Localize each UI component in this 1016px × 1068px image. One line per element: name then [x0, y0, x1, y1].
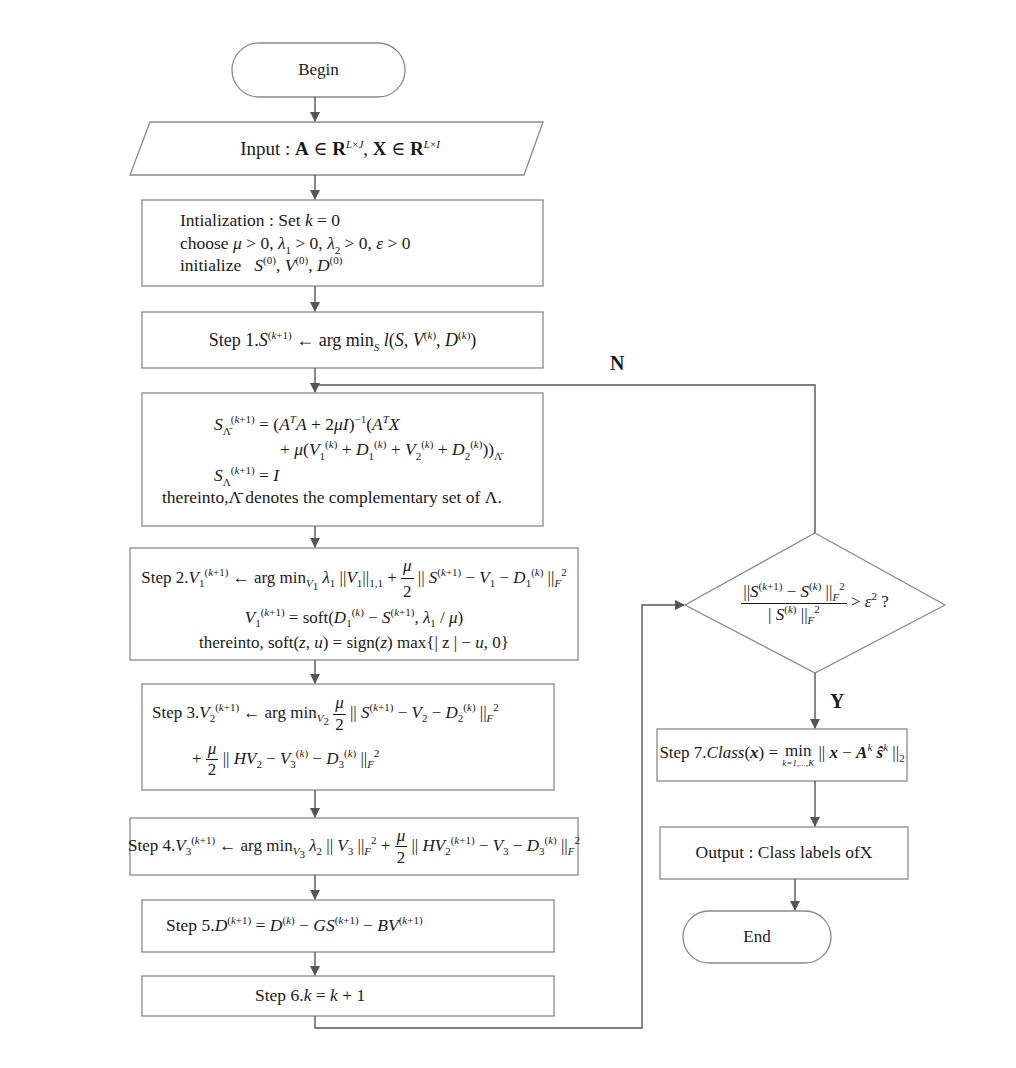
begin-label: Begin [298, 59, 339, 80]
step6-node: Step 6.k = k + 1 [142, 976, 554, 1016]
init-node: Intialization : Set k = 0 choose μ > 0, … [142, 200, 543, 286]
step3-line-2: + μ2 || HV2 − V3(k) − D3(k) ||F2 [142, 739, 380, 781]
step2-line-3: thereinto, soft(z, u) = sign(z) max{| z … [199, 630, 509, 656]
begin-terminal: Begin [232, 43, 405, 97]
init-line-3: initialize S(0), V(0), D(0) [180, 254, 342, 276]
no-branch-label: N [610, 352, 624, 375]
s-update-line-2: + μ(V1(k) + D1(k) + V2(k) + D2(k)))Λ̄ [142, 437, 502, 462]
step3-line-1: Step 3.V2(k+1) ← arg minV2 μ2 || S(k+1) … [142, 693, 499, 735]
input-label: Input : A ∈ RL×J, X ∈ RL×I [240, 137, 440, 161]
end-label: End [743, 926, 770, 947]
step2-node: Step 2.V1(k+1) ← arg minV1 λ1 ||V1||1,1 … [130, 548, 578, 660]
s-update-line-3: SΛ(k+1) = I [142, 463, 279, 488]
step1-formula: Step 1.S(k+1) ← arg minS l(S, V(k), D(k)… [209, 329, 477, 352]
step4-node: Step 4.V3(k+1) ← arg minV3 λ2 || V3 ||F2… [130, 818, 578, 875]
step5-formula: Step 5.D(k+1) = D(k) − GS(k+1) − BV(k+1) [166, 915, 423, 937]
decision-formula: ||S(k+1) − S(k) ||F2| S(k) ||F2 > ε2 ? [741, 581, 888, 625]
step7-node: Step 7.Class(x) = mink=1,...,K || x − Ak… [657, 729, 907, 781]
step7-formula: Step 7.Class(x) = mink=1,...,K || x − Ak… [659, 742, 904, 768]
s-update-node: SΛ̄(k+1) = (ATA + 2μI)−1(ATX + μ(V1(k) +… [142, 393, 543, 526]
s-update-line-1: SΛ̄(k+1) = (ATA + 2μI)−1(ATX [142, 412, 400, 437]
step4-formula: Step 4.V3(k+1) ← arg minV3 λ2 || V3 ||F2… [128, 825, 580, 869]
step2-line-1: Step 2.V1(k+1) ← arg minV1 λ1 ||V1||1,1 … [141, 553, 566, 605]
step2-line-2: V1(k+1) = soft(D1(k) − S(k+1), λ1 / μ) [245, 605, 463, 631]
step3-node: Step 3.V2(k+1) ← arg minV2 μ2 || S(k+1) … [142, 684, 554, 790]
step5-node: Step 5.D(k+1) = D(k) − GS(k+1) − BV(k+1) [142, 900, 554, 952]
step1-node: Step 1.S(k+1) ← arg minS l(S, V(k), D(k)… [142, 312, 543, 368]
output-node: Output : Class labels ofX [660, 827, 908, 879]
end-terminal: End [683, 911, 831, 963]
input-node: Input : A ∈ RL×J, X ∈ RL×I [140, 122, 540, 175]
decision-node: ||S(k+1) − S(k) ||F2| S(k) ||F2 > ε2 ? [685, 533, 945, 673]
step6-formula: Step 6.k = k + 1 [255, 985, 365, 1007]
init-line-2: choose μ > 0, λ1 > 0, λ2 > 0, ε > 0 [180, 232, 411, 254]
yes-branch-label: Y [830, 690, 844, 713]
init-line-1: Intialization : Set k = 0 [180, 209, 340, 231]
s-update-line-4: thereinto,Λ̄ denotes the complementary s… [142, 488, 502, 507]
output-label: Output : Class labels ofX [696, 842, 873, 864]
